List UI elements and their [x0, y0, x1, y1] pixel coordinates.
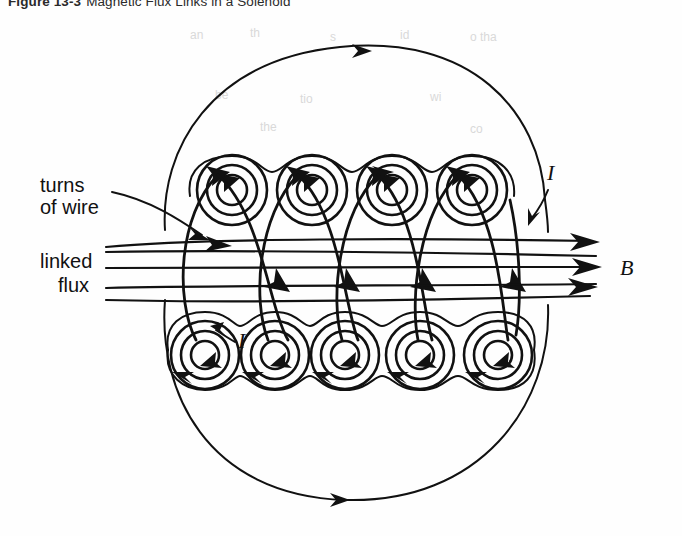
- bottom-coil-1: [171, 321, 239, 389]
- linked-label-line1: linked: [40, 250, 92, 272]
- wire-current-arrow-4: [500, 268, 526, 292]
- turns-label-line1: turns: [40, 174, 84, 196]
- wire-loops: [183, 175, 526, 340]
- bottom-coil-3: [311, 321, 379, 389]
- wire-current-arrow-3: [410, 268, 436, 292]
- figure-container: an th s id o tha be tio wi the co Figure…: [0, 0, 682, 536]
- field-circle-bottom-5-a: [474, 331, 522, 379]
- wire-loop-1-left: [183, 175, 218, 340]
- top-coil-3: [357, 155, 427, 225]
- flux-line-3: [106, 267, 592, 268]
- field-circle-bottom-4-a: [396, 331, 444, 379]
- top-coil-4: [437, 155, 507, 225]
- flux-arrowhead-1: [570, 233, 600, 251]
- flux-arrowhead-3: [568, 278, 598, 296]
- turns-label-line2: of wire: [40, 196, 99, 218]
- label-turns-of-wire: turns of wire: [40, 174, 210, 240]
- outer-flux-envelope: [164, 44, 548, 507]
- field-circle-bottom-3-a: [321, 331, 369, 379]
- label-current-top: I: [528, 160, 556, 226]
- label-field-symbol: B: [620, 255, 633, 280]
- field-circle-bottom-2-a: [251, 331, 299, 379]
- bottom-coil-4: [386, 321, 454, 389]
- bottom-coil-2: [241, 321, 309, 389]
- linked-label-line2: flux: [58, 274, 89, 296]
- flux-line-2: [106, 251, 596, 256]
- bottom-coil-5: [464, 321, 532, 389]
- linked-flux-lines: [106, 233, 602, 301]
- field-symbol-B: B: [620, 255, 633, 280]
- flux-arrowhead-interior: [204, 236, 232, 252]
- solenoid-flux-diagram: turns of wire linked flux I I B: [0, 0, 682, 536]
- current-top-symbol: I: [546, 160, 556, 185]
- label-linked-flux: linked flux: [40, 250, 92, 296]
- turns-leader-arrowhead: [188, 228, 210, 240]
- envelope-lower-arc: [164, 300, 548, 500]
- flux-line-1: [106, 239, 592, 247]
- field-circle-bottom-1-a: [181, 331, 229, 379]
